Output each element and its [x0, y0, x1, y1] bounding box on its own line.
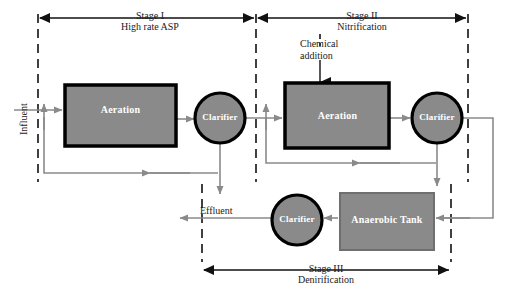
unit-label-aeration-2: Aeration	[305, 110, 370, 121]
stage-1-title: Stage I High rate ASP	[95, 10, 205, 32]
process-flow-diagram: Stage I High rate ASP Stage II Nitrifica…	[0, 0, 515, 301]
stage-3-title: Stage III Denirification	[271, 263, 381, 285]
stage-1-subtitle: High rate ASP	[121, 21, 179, 32]
unit-label-anaerobic-tank: Anaerobic Tank	[342, 214, 432, 225]
effluent-label: Effluent	[200, 205, 233, 216]
stage-3-name: Stage III	[309, 263, 344, 274]
stage-2-subtitle: Nitrification	[337, 21, 386, 32]
unit-label-clarifier-3: Clarifier	[272, 214, 322, 224]
unit-label-aeration-1: Aeration	[88, 104, 153, 115]
stage-3-subtitle: Denirification	[298, 274, 354, 285]
unit-aeration-1	[65, 85, 176, 146]
stage-2-title: Stage II Nitrification	[307, 10, 417, 32]
unit-label-clarifier-1: Clarifier	[195, 112, 245, 122]
stage-2-name: Stage II	[346, 10, 377, 21]
chemical-addition-line-2: addition	[300, 50, 333, 61]
stage-1-name: Stage I	[136, 10, 164, 21]
unit-label-clarifier-2: Clarifier	[412, 112, 462, 122]
diagram-canvas	[0, 0, 515, 301]
chemical-addition-line-1: Chemical	[300, 38, 338, 49]
chemical-addition-label: Chemical addition	[300, 38, 338, 62]
influent-label: Influent	[18, 103, 29, 135]
